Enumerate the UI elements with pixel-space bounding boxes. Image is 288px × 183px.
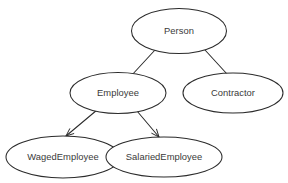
person-node-label: Person (164, 25, 194, 36)
employee-node-label: Employee (97, 87, 139, 98)
node-person[interactable]: Person (132, 9, 227, 54)
edge-person-employee (131, 50, 155, 76)
waged-employee-node-label: WagedEmployee (27, 151, 98, 162)
diagram-canvas: Person Employee Contractor WagedEmployee… (0, 0, 288, 183)
node-employee[interactable]: Employee (70, 73, 166, 114)
node-waged-employee[interactable]: WagedEmployee (6, 136, 120, 178)
edge-employee-salaried-employee (137, 111, 159, 137)
edge-person-contractor (205, 50, 227, 74)
node-salaried-employee[interactable]: SalariedEmployee (106, 137, 222, 177)
contractor-node-label: Contractor (211, 87, 255, 98)
edge-employee-waged-employee (66, 110, 97, 136)
class-hierarchy-diagram: Person Employee Contractor WagedEmployee… (0, 0, 288, 183)
salaried-employee-node-label: SalariedEmployee (126, 151, 202, 162)
node-contractor[interactable]: Contractor (183, 73, 283, 113)
